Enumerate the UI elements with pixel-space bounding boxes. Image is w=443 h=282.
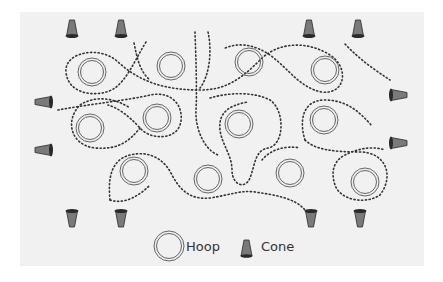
dotted-paths <box>58 32 390 210</box>
cone-icon <box>389 89 407 102</box>
legend-hoop-label: Hoop <box>186 239 220 254</box>
hoop-icon <box>143 104 171 132</box>
cone-icon <box>115 209 128 227</box>
cone-icon <box>352 20 365 38</box>
cone-icon <box>66 20 79 38</box>
cone-icon <box>389 137 407 150</box>
legend-cone-icon <box>241 240 253 258</box>
hoop-icon <box>310 106 338 134</box>
hoop-icon <box>157 52 185 80</box>
hoop-icon <box>311 56 339 84</box>
hoop-icon <box>351 168 379 196</box>
legend-hoop-icon <box>154 231 184 261</box>
cone-icon <box>115 20 128 38</box>
cone-icon <box>66 209 79 227</box>
cone-icon <box>303 20 316 38</box>
hoop-icon <box>120 157 148 185</box>
legend-cone-label: Cone <box>261 239 294 254</box>
cone-icon <box>305 209 318 227</box>
hoop-icon <box>78 58 106 86</box>
hoop-icon <box>276 159 304 187</box>
hoop-icon <box>194 165 222 193</box>
hoop-icon <box>76 114 104 142</box>
cone-icon <box>354 209 367 227</box>
hoop-icon <box>225 110 253 138</box>
cone-icon <box>35 96 53 109</box>
cone-icon <box>35 144 53 157</box>
drill-diagram <box>0 0 443 282</box>
